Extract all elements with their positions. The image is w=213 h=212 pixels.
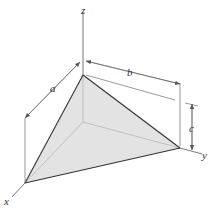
dimension-b-label: b	[127, 66, 133, 78]
dimension-a-label: a	[50, 82, 56, 94]
x-axis	[12, 183, 25, 197]
tetrahedron-diagram: z x y a b c	[0, 0, 213, 212]
x-axis-label: x	[3, 195, 9, 207]
z-axis-label: z	[80, 4, 86, 16]
tetrahedron-face	[25, 75, 180, 183]
y-axis-label: y	[201, 149, 207, 161]
y-axis	[180, 148, 202, 154]
dimension-c-label: c	[189, 122, 194, 134]
